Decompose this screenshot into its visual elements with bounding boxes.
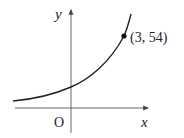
point-label: (3, 54)	[130, 30, 168, 46]
graph: y (3, 54) O x	[0, 0, 184, 138]
x-axis-label: x	[140, 114, 148, 130]
y-axis-label: y	[53, 6, 62, 22]
origin-label: O	[54, 115, 64, 130]
point-marker	[121, 33, 126, 38]
exponential-curve	[13, 14, 131, 101]
